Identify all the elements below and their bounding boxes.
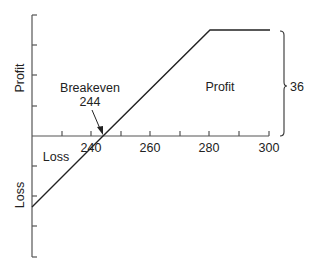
x-tick-280: 280	[199, 141, 220, 155]
y-label-profit: Profit	[13, 63, 27, 93]
max-profit-brace	[280, 31, 287, 136]
x-tick-300: 300	[259, 141, 280, 155]
payoff-chart: 240 260 280 300 Profit Loss Breakeven 24…	[0, 0, 316, 269]
breakeven-value: 244	[80, 95, 101, 109]
loss-region-label: Loss	[43, 150, 69, 164]
y-label-loss: Loss	[13, 182, 27, 208]
x-tick-260: 260	[140, 141, 161, 155]
breakeven-arrow	[92, 110, 103, 135]
x-axis	[32, 131, 269, 136]
payoff-line	[32, 30, 270, 207]
max-profit-value: 36	[290, 80, 304, 94]
profit-region-label: Profit	[205, 80, 235, 94]
breakeven-label: Breakeven	[60, 81, 120, 95]
